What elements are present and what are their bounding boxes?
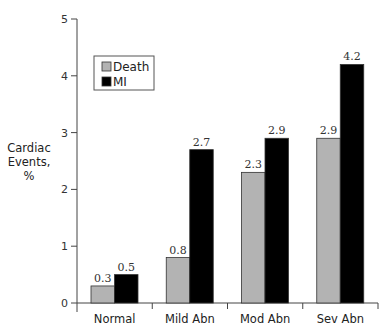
bar-death <box>242 172 266 303</box>
bar-mi <box>265 138 289 303</box>
x-category-label: Mild Abn <box>165 312 215 326</box>
bar-death <box>91 286 115 303</box>
y-tick-label: 5 <box>61 13 68 26</box>
x-category-label: Sev Abn <box>317 312 364 326</box>
bar-death <box>166 258 190 303</box>
data-label: 4.2 <box>343 50 361 63</box>
data-label: 2.9 <box>320 124 338 137</box>
y-axis-label: CardiacEvents,% <box>7 141 50 183</box>
bar-mi <box>190 150 214 303</box>
bar-group-mod-abn: 2.32.9Mod Abn <box>240 124 290 326</box>
x-category-label: Mod Abn <box>240 312 290 326</box>
y-label-line: Cardiac <box>7 141 50 155</box>
bar-group-mild-abn: 0.82.7Mild Abn <box>165 136 215 326</box>
y-tick-label: 4 <box>61 70 68 83</box>
data-label: 2.3 <box>245 158 263 171</box>
legend-swatch-mi <box>102 77 111 86</box>
y-label-line: Events, <box>8 155 51 169</box>
legend: DeathMI <box>94 56 154 90</box>
bars: 0.30.5Normal0.82.7Mild Abn2.32.9Mod Abn2… <box>91 50 364 326</box>
bar-mi <box>115 275 139 303</box>
x-axis <box>77 303 378 309</box>
bar-chart: 012345 0.30.5Normal0.82.7Mild Abn2.32.9M… <box>0 0 391 333</box>
legend-swatch-death <box>102 62 111 71</box>
data-label: 0.3 <box>94 272 112 285</box>
x-category-label: Normal <box>94 312 136 326</box>
bar-group-normal: 0.30.5Normal <box>91 261 138 326</box>
data-label: 0.8 <box>169 244 187 257</box>
y-label-line: % <box>24 169 35 183</box>
data-label: 2.9 <box>268 124 286 137</box>
bar-mi <box>340 64 364 303</box>
y-tick-label: 2 <box>61 183 68 196</box>
y-axis: 012345 <box>61 13 77 312</box>
y-tick-label: 3 <box>61 127 68 140</box>
bar-death <box>317 138 341 303</box>
y-tick-label: 0 <box>61 297 68 310</box>
legend-label-death: Death <box>113 60 149 74</box>
bar-group-sev-abn: 2.94.2Sev Abn <box>317 50 364 326</box>
legend-label-mi: MI <box>113 75 127 89</box>
data-label: 2.7 <box>193 136 211 149</box>
y-tick-label: 1 <box>61 240 68 253</box>
data-label: 0.5 <box>118 261 136 274</box>
